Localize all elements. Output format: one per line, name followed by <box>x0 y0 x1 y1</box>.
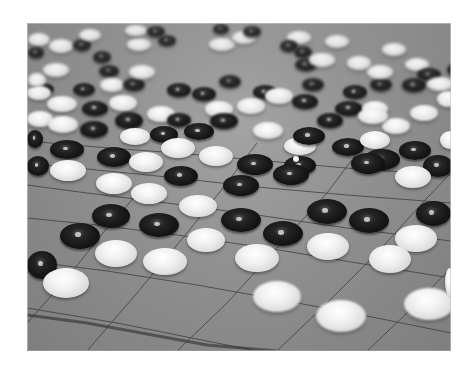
black-stone <box>158 35 176 46</box>
black-stone <box>93 51 111 63</box>
black-stone <box>293 127 325 145</box>
black-stone <box>307 199 347 224</box>
white-stone <box>253 281 301 312</box>
black-stone <box>60 223 100 249</box>
black-stone <box>210 113 238 129</box>
black-stone <box>82 101 108 116</box>
white-stone <box>179 195 217 217</box>
white-stone <box>95 240 137 267</box>
white-stone <box>404 288 451 320</box>
white-stone <box>47 96 77 112</box>
white-stone <box>187 228 225 252</box>
white-stone <box>293 156 299 162</box>
white-stone <box>127 38 151 51</box>
white-stone <box>43 268 89 298</box>
white-stone <box>360 131 390 149</box>
white-stone <box>253 122 283 139</box>
black-stone <box>292 94 318 109</box>
white-stone <box>28 33 50 46</box>
white-stone <box>96 173 132 194</box>
white-stone <box>307 233 349 260</box>
white-stone <box>27 86 51 100</box>
black-stone <box>399 141 431 160</box>
white-stone <box>120 128 150 145</box>
white-stone <box>79 29 101 41</box>
white-stone <box>382 118 410 134</box>
white-stone <box>125 25 147 36</box>
black-stone <box>27 156 49 176</box>
black-stone <box>343 85 367 99</box>
go-board-photo <box>27 23 451 351</box>
black-stone <box>139 213 179 237</box>
white-stone <box>131 183 167 204</box>
white-stone <box>129 65 155 79</box>
white-stone <box>237 98 265 114</box>
white-stone <box>325 35 349 48</box>
black-stone <box>164 166 198 186</box>
black-stone <box>213 24 229 34</box>
white-stone <box>209 38 235 51</box>
black-stone <box>115 112 143 129</box>
white-stone <box>369 245 411 273</box>
black-stone <box>97 147 131 167</box>
black-stone <box>317 113 343 128</box>
white-stone <box>43 63 69 77</box>
white-stone <box>382 43 406 56</box>
black-stone <box>349 208 389 233</box>
black-stone <box>92 204 130 228</box>
white-stone <box>28 73 46 87</box>
white-stone <box>395 166 431 188</box>
black-stone <box>302 78 324 91</box>
black-stone <box>28 47 44 58</box>
black-stone <box>219 75 241 88</box>
white-stone <box>100 78 124 92</box>
white-stone <box>367 65 393 79</box>
white-stone <box>410 105 438 121</box>
black-stone <box>221 208 261 232</box>
white-stone <box>427 77 451 91</box>
black-stone <box>351 153 385 174</box>
white-stone <box>109 95 137 111</box>
black-stone <box>99 65 119 77</box>
white-stone <box>316 300 366 332</box>
white-stone <box>309 53 335 67</box>
white-stone <box>49 39 73 53</box>
black-stone <box>123 78 145 91</box>
black-stone <box>73 83 95 96</box>
black-stone <box>223 175 259 196</box>
white-stone <box>161 138 195 158</box>
white-stone <box>143 248 187 275</box>
black-stone <box>416 201 451 226</box>
black-stone <box>50 140 84 159</box>
white-stone <box>199 146 233 166</box>
black-stone <box>184 123 214 140</box>
white-stone <box>235 244 279 272</box>
white-stone <box>129 152 163 172</box>
black-stone <box>263 221 303 246</box>
black-stone <box>370 78 392 91</box>
black-stone <box>243 26 261 37</box>
black-stone <box>80 121 108 138</box>
white-stone <box>50 160 86 181</box>
black-stone <box>192 87 216 101</box>
black-stone <box>273 164 309 185</box>
white-stone <box>265 88 293 104</box>
white-stone <box>358 108 388 124</box>
black-stone <box>167 83 191 97</box>
white-stone <box>48 116 78 133</box>
black-stone <box>27 130 43 148</box>
black-stone <box>237 154 273 175</box>
